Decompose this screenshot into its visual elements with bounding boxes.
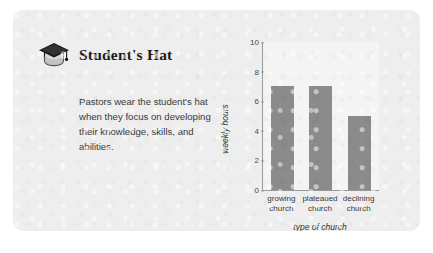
card-body-text: Pastors wear the student's hat when they… [79, 94, 219, 154]
y-tick-6: 6 [255, 97, 259, 106]
card-left-panel: Student's Hat Pastors wear the student's… [38, 38, 223, 208]
graduation-cap-icon [38, 42, 70, 68]
card-header: Student's Hat [38, 38, 223, 72]
y-tick-2: 2 [255, 156, 259, 165]
x-tick-plateaued-church: plateaued church [301, 194, 339, 214]
x-axis-tick-labels: growing church plateaued church declinin… [262, 194, 378, 214]
x-tick-declining-church: declining church [340, 194, 378, 214]
y-tick-0: 0 [255, 186, 259, 195]
y-tick-4: 4 [255, 126, 259, 135]
card-title: Student's Hat [79, 46, 172, 64]
bar-declining-church [348, 116, 371, 190]
x-tick-growing-church: growing church [262, 194, 300, 214]
bar-series [263, 42, 379, 190]
y-tick-10: 10 [250, 38, 259, 47]
bar-chart: weekly hours 10 8 6 4 2 0 growing church… [229, 36, 414, 221]
y-axis-label: weekly hours [220, 104, 230, 154]
plot-area: 10 8 6 4 2 0 [262, 42, 379, 191]
bar-growing-church [271, 86, 294, 190]
x-axis-label: type of church [262, 222, 378, 231]
bar-plateaued-church [309, 86, 332, 190]
info-card: Student's Hat Pastors wear the student's… [13, 10, 420, 231]
y-tick-8: 8 [255, 67, 259, 76]
